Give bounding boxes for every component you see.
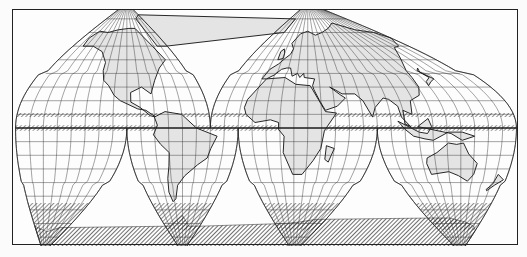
- world-map: [13, 10, 519, 246]
- south-america-landmass: [153, 112, 217, 202]
- madagascar-landmass: [325, 146, 335, 162]
- antarctic-zone: [28, 203, 89, 230]
- uk-landmass: [278, 49, 285, 60]
- antarctica-landmass: [35, 215, 476, 246]
- australia-landmass: [427, 143, 478, 181]
- map-frame: Interrupted world map (Goode homolosine)…: [12, 9, 518, 245]
